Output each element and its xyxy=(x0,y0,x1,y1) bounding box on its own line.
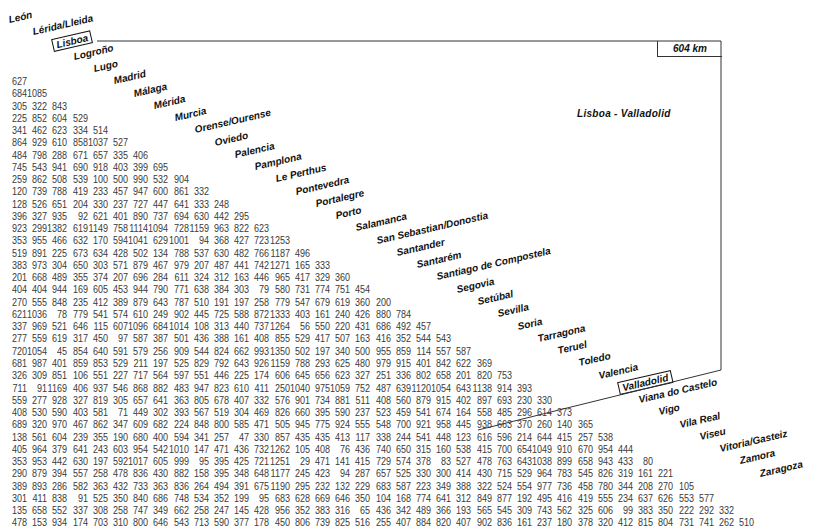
route-connector-line xyxy=(97,41,721,430)
distance-result: 604 km xyxy=(673,43,707,54)
distance-result-box: 604 km xyxy=(657,41,722,57)
route-label: Lisboa - Valladolid xyxy=(577,108,671,119)
